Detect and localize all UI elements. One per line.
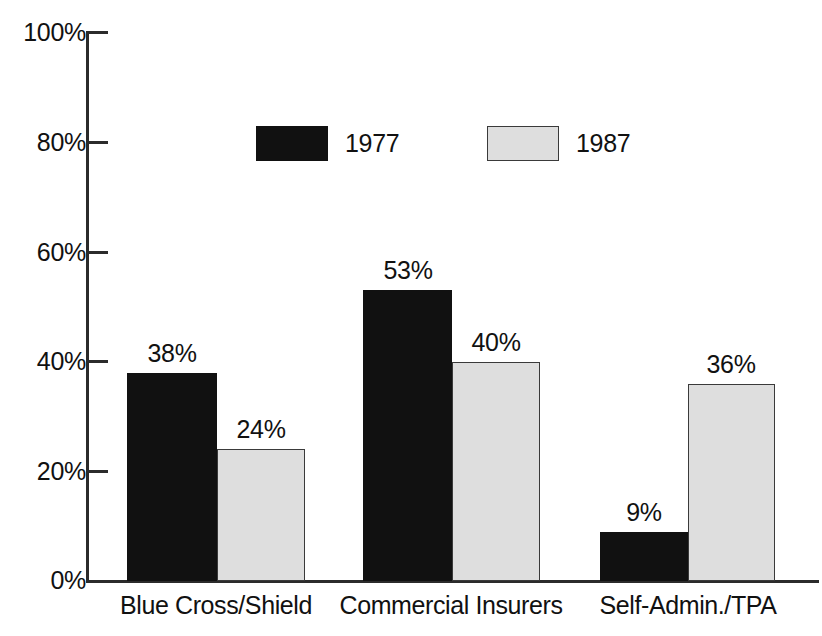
bar-1977-blue-cross-shield <box>127 373 217 581</box>
bar-1987-commercial-insurers <box>452 362 540 581</box>
y-axis-tick-text: 0% <box>4 568 86 593</box>
y-axis-tick-text: 80% <box>4 130 86 155</box>
bar-1987-self-admin-tpa <box>688 384 775 581</box>
bar-1977-commercial-insurers <box>363 290 452 581</box>
bar-1987-blue-cross-shield <box>217 449 305 581</box>
x-axis-category-blue-cross-shield: Blue Cross/Shield <box>96 590 336 620</box>
y-axis-tick-label-0: 0% <box>0 568 86 593</box>
y-axis-tick-label-40: 40% <box>0 349 86 374</box>
y-axis-tick-mark-20 <box>89 470 108 473</box>
y-axis-tick-text: 20% <box>4 459 86 484</box>
y-axis-tick-label-80: 80% <box>0 130 86 155</box>
bar-value-1987-blue-cross-shield: 24% <box>211 417 311 442</box>
y-axis-tick-text: 40% <box>4 349 86 374</box>
bar-value-1977-self-admin-tpa: 9% <box>594 500 694 525</box>
bar-value-1977-blue-cross-shield: 38% <box>122 341 222 366</box>
bar-chart: 100% 80% 60% 40% 20% 0% 1977 1987 38% 24… <box>0 0 822 636</box>
y-axis-tick-mark-40 <box>89 360 108 363</box>
y-axis-line <box>86 31 89 583</box>
legend-label-1977: 1977 <box>345 126 399 161</box>
y-axis-tick-label-20: 20% <box>0 459 86 484</box>
y-axis-tick-text: 100% <box>4 20 86 45</box>
y-axis-tick-mark-100 <box>89 31 108 34</box>
y-axis-tick-label-60: 60% <box>0 240 86 265</box>
x-axis-category-self-admin-tpa: Self-Admin./TPA <box>568 590 808 620</box>
bar-value-1977-commercial-insurers: 53% <box>358 258 458 283</box>
legend-label-1987: 1987 <box>576 126 630 161</box>
y-axis-tick-mark-60 <box>89 251 108 254</box>
y-axis-tick-text: 60% <box>4 240 86 265</box>
legend-swatch-1987 <box>487 126 559 161</box>
bar-value-1987-commercial-insurers: 40% <box>446 330 546 355</box>
bar-value-1987-self-admin-tpa: 36% <box>681 352 781 377</box>
legend-swatch-1977 <box>256 126 328 161</box>
bar-1977-self-admin-tpa <box>600 532 688 581</box>
x-axis-category-commercial-insurers: Commercial Insurers <box>331 590 571 620</box>
y-axis-tick-mark-80 <box>89 141 108 144</box>
y-axis-tick-label-100: 100% <box>0 20 86 45</box>
